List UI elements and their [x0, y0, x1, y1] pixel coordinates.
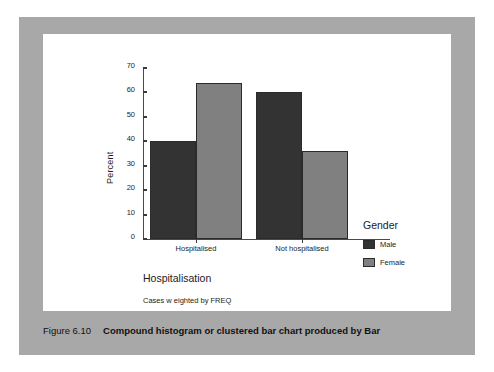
y-tick-mark	[143, 67, 147, 69]
y-tick-label: 40	[127, 135, 135, 143]
figure-caption: Figure 6.10Compound histogram or cluster…	[43, 325, 463, 336]
y-tick-mark	[143, 116, 147, 118]
legend-rows: MaleFemale	[363, 240, 449, 267]
category-tick	[302, 239, 303, 243]
legend-item-female: Female	[363, 258, 449, 267]
chart-footnote: Cases w eighted by FREQ	[143, 296, 231, 305]
bar-female-hospitalised	[196, 83, 242, 239]
caption-text: Compound histogram or clustered bar char…	[103, 325, 380, 336]
figure-panel: 010203040506070 HospitalisedNot hospital…	[19, 17, 475, 355]
y-tick-label: 50	[127, 111, 135, 119]
y-tick-mark	[143, 238, 147, 240]
y-tick-label: 0	[131, 233, 135, 241]
x-axis-line	[143, 239, 390, 240]
y-tick-mark	[143, 214, 147, 216]
y-tick-label: 20	[127, 184, 135, 192]
y-tick-mark	[143, 189, 147, 191]
category-tick	[196, 239, 197, 243]
legend-label-male: Male	[380, 240, 396, 249]
plot-wrap: 010203040506070 HospitalisedNot hospital…	[43, 34, 451, 311]
y-tick-label: 70	[127, 62, 135, 70]
y-tick-label: 10	[127, 209, 135, 217]
y-axis-title: Percent	[105, 152, 115, 184]
category-label: Not hospitalised	[275, 245, 328, 253]
category-label: Hospitalised	[176, 245, 217, 253]
chart-card: 010203040506070 HospitalisedNot hospital…	[43, 34, 451, 311]
legend-title: Gender	[363, 219, 449, 231]
y-tick-label: 60	[127, 86, 135, 94]
caption-number: Figure 6.10	[43, 325, 91, 336]
bar-male-not-hospitalised	[256, 92, 302, 239]
x-axis-title: Hospitalisation	[143, 272, 211, 284]
bar-male-hospitalised	[150, 141, 196, 239]
bar-female-not-hospitalised	[302, 151, 348, 239]
y-tick-label: 30	[127, 160, 135, 168]
legend-item-male: Male	[363, 240, 449, 249]
y-tick-mark	[143, 140, 147, 142]
figure-root: 010203040506070 HospitalisedNot hospital…	[0, 0, 494, 372]
legend-swatch-male	[363, 240, 375, 249]
legend-swatch-female	[363, 258, 375, 267]
legend-label-female: Female	[380, 258, 405, 267]
y-tick-mark	[143, 91, 147, 93]
y-tick-mark	[143, 165, 147, 167]
legend: Gender MaleFemale	[363, 219, 449, 276]
